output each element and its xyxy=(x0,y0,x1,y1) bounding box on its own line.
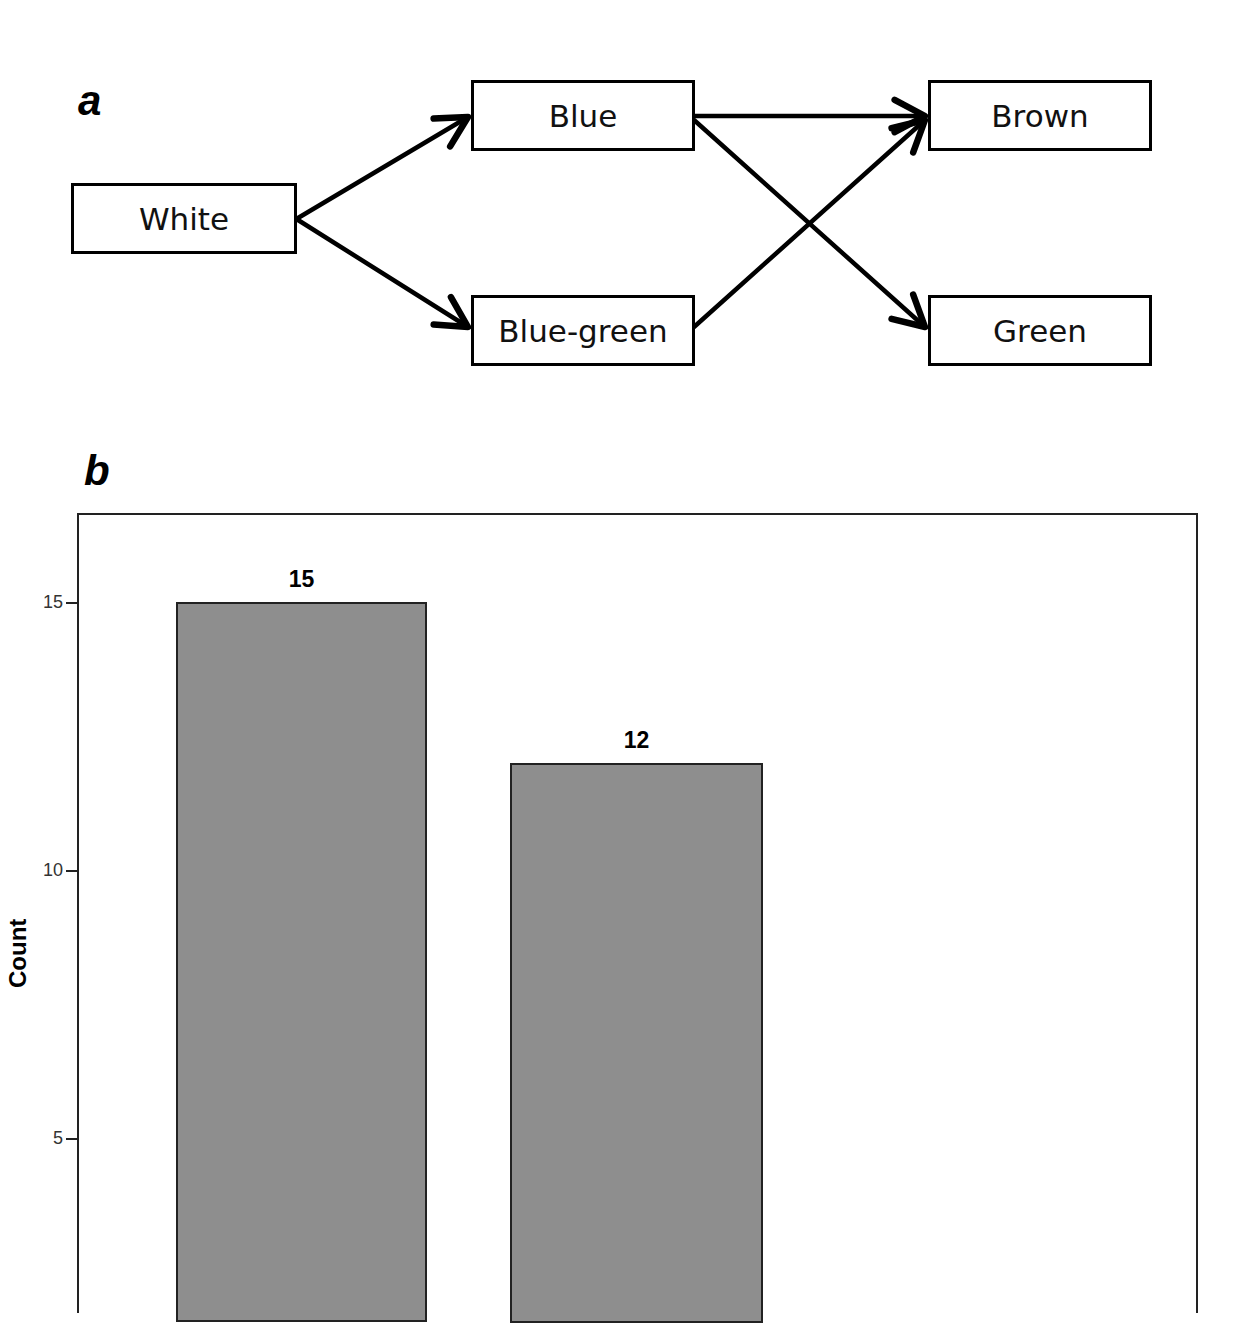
bar-1 xyxy=(176,602,427,1322)
bar-1-value: 15 xyxy=(176,566,427,593)
y-tick-15: 15 xyxy=(23,592,63,613)
y-axis-label: Count xyxy=(4,928,32,988)
y-tick-5: 5 xyxy=(23,1128,63,1149)
bar-2-value: 12 xyxy=(510,727,763,754)
y-tick-10: 10 xyxy=(23,860,63,881)
bar-2 xyxy=(510,763,763,1323)
